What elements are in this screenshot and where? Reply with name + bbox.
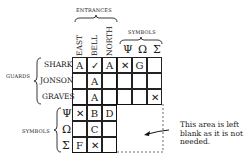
grid-cell[interactable] xyxy=(102,89,117,105)
grid-cell[interactable]: A xyxy=(87,89,102,105)
grid-cell[interactable] xyxy=(117,73,132,89)
symbols-top-group-label: SYMBOLS xyxy=(128,29,156,35)
symbols-left-group-label: SYMBOLS xyxy=(22,128,50,134)
arrow-icon xyxy=(142,128,170,138)
grid-cell[interactable] xyxy=(147,57,162,73)
grid-cell[interactable]: A xyxy=(102,57,117,73)
grid-cell[interactable] xyxy=(147,73,162,89)
row-header-omega: Ω xyxy=(62,123,71,136)
grid-cell[interactable]: D xyxy=(102,105,117,121)
entrances-group-label: ENTRANCES xyxy=(76,7,112,13)
guards-group-label: GUARDS xyxy=(6,73,30,79)
grid-cell[interactable]: C xyxy=(87,121,102,137)
grid-cell[interactable]: B xyxy=(87,105,102,121)
symbols-left-brace-icon xyxy=(54,107,62,153)
column-header-sigma: Σ xyxy=(153,43,161,56)
grid-cell[interactable] xyxy=(72,89,87,105)
column-header-north: NORTH xyxy=(105,22,114,56)
grid-cell[interactable]: G xyxy=(132,57,147,73)
grid-cell[interactable] xyxy=(117,89,132,105)
grid-cell[interactable] xyxy=(102,121,117,137)
grid-cell[interactable]: A xyxy=(72,57,87,73)
grid-cell[interactable] xyxy=(102,137,117,153)
grid-cell[interactable]: ✓ xyxy=(87,57,102,73)
grid-cell[interactable] xyxy=(102,73,117,89)
grid-cell[interactable]: ✕ xyxy=(72,105,87,121)
grid-cell[interactable] xyxy=(72,121,87,137)
row-header-jonson: JONSON xyxy=(40,76,74,85)
grid-cell[interactable]: ✕ xyxy=(87,137,102,153)
row-header-sigma: Σ xyxy=(62,139,70,152)
column-header-omega: Ω xyxy=(138,43,147,56)
grid-cell[interactable] xyxy=(72,73,87,89)
grid-cell[interactable]: ✕ xyxy=(117,57,132,73)
note-line: needed. xyxy=(180,138,243,147)
grid-cell[interactable]: A xyxy=(87,73,102,89)
column-header-bell: BELL xyxy=(90,30,99,56)
grid-cell[interactable]: F xyxy=(72,137,87,153)
row-header-graves: GRAVES xyxy=(42,92,75,101)
grid-cell[interactable] xyxy=(132,89,147,105)
grid-cell[interactable] xyxy=(132,73,147,89)
column-header-psi: Ψ xyxy=(123,43,133,56)
column-header-east: EAST xyxy=(75,26,84,56)
row-header-psi: Ψ xyxy=(62,107,72,120)
row-header-shark: SHARK xyxy=(44,60,72,69)
grid-cell[interactable]: ✕ xyxy=(147,89,162,105)
annotation-note: This area is left blank as it is not nee… xyxy=(180,121,243,147)
